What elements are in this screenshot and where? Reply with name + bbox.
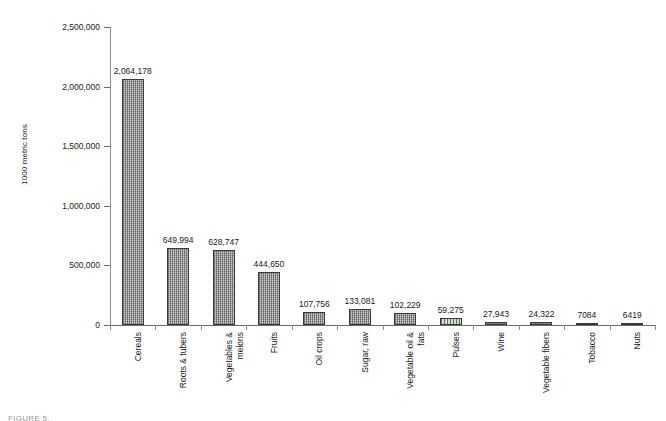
bar[interactable] xyxy=(394,313,416,325)
y-axis-tick-label: 2,000,000 xyxy=(14,82,100,92)
bar-slot: 133,081 xyxy=(337,27,382,325)
x-axis-tick xyxy=(292,325,293,330)
x-axis-category-label-line: Roots & tubers xyxy=(178,332,188,388)
bar[interactable] xyxy=(303,312,325,325)
y-axis-tick-label: 1,000,000 xyxy=(14,201,100,211)
x-axis-category-label-line: Oil crops xyxy=(314,332,324,366)
bar[interactable] xyxy=(213,250,235,325)
x-axis-category-label: Vegetable oil &fats xyxy=(383,332,428,418)
bar[interactable] xyxy=(530,322,552,325)
x-axis-category-label: Sugar, raw xyxy=(337,332,382,418)
x-axis-tick xyxy=(337,325,338,330)
x-axis-category-label: Pulses xyxy=(428,332,473,418)
bar-slot: 649,994 xyxy=(155,27,200,325)
y-axis-tick-label: 0 xyxy=(14,320,100,330)
x-axis-tick xyxy=(610,325,611,330)
x-axis-tick xyxy=(519,325,520,330)
bar[interactable] xyxy=(440,318,462,325)
bar-slot: 444,650 xyxy=(246,27,291,325)
x-axis-category-label-line: Vegetable fibers xyxy=(541,332,551,393)
bar[interactable] xyxy=(485,322,507,325)
bar-slot: 27,943 xyxy=(473,27,518,325)
x-axis-category-label-line: Wine xyxy=(496,332,506,351)
x-axis-tick xyxy=(155,325,156,330)
x-axis-tick xyxy=(655,325,656,330)
x-axis-category-label-line: Nuts xyxy=(632,332,642,349)
x-axis-tick xyxy=(246,325,247,330)
x-axis-category-label: Fruits xyxy=(246,332,291,418)
x-axis-category-label: Vegetable fibers xyxy=(519,332,564,418)
bar-slot: 7084 xyxy=(564,27,609,325)
y-axis-tick-label: 2,500,000 xyxy=(14,22,100,32)
bar[interactable] xyxy=(122,79,144,325)
x-axis-category-label: Roots & tubers xyxy=(155,332,200,418)
x-axis-category-label-line: Sugar, raw xyxy=(360,332,370,373)
bar-slot: 102,229 xyxy=(383,27,428,325)
plot-area: 2,064,178649,994628,747444,650107,756133… xyxy=(110,27,655,325)
x-axis-category-label: Vegetables &melons xyxy=(201,332,246,418)
x-axis-category-label-line: Pulses xyxy=(451,332,461,358)
x-axis-category-label: Wine xyxy=(473,332,518,418)
bar-chart: 1000 metric tons 2,500,0002,000,0001,500… xyxy=(0,0,666,421)
x-axis-tick xyxy=(201,325,202,330)
x-axis-category-label-line: Vegetable oil & xyxy=(405,332,415,389)
footer-caption-scrap: FIGURE 5. xyxy=(8,414,50,421)
bar-slot: 107,756 xyxy=(292,27,337,325)
x-axis-category-label-line: Cereals xyxy=(133,332,143,361)
x-axis-category-label: Cereals xyxy=(110,332,155,418)
bar[interactable] xyxy=(621,323,643,325)
bar-value-label: 6419 xyxy=(597,310,666,320)
bar-slot: 59,275 xyxy=(428,27,473,325)
bar[interactable] xyxy=(258,272,280,325)
x-axis-category-label-line: Tobacco xyxy=(587,332,597,364)
x-axis-category-label: Oil crops xyxy=(292,332,337,418)
y-axis-title: 1000 metric tons xyxy=(20,95,29,215)
x-axis-tick xyxy=(564,325,565,330)
x-axis-tick xyxy=(428,325,429,330)
bar-slot: 628,747 xyxy=(201,27,246,325)
bar-slot: 2,064,178 xyxy=(110,27,155,325)
bar[interactable] xyxy=(576,323,598,325)
x-axis-category-label: Nuts xyxy=(610,332,655,418)
x-axis-tick xyxy=(110,325,111,330)
bar[interactable] xyxy=(167,248,189,325)
y-axis-tick-label: 1,500,000 xyxy=(14,141,100,151)
x-axis-tick xyxy=(473,325,474,330)
x-axis-category-label-line: Vegetables & xyxy=(224,332,234,382)
bar-slot: 6419 xyxy=(610,27,655,325)
x-axis-tick xyxy=(383,325,384,330)
x-axis-category-label-line: Fruits xyxy=(269,332,279,353)
bar-slot: 24,322 xyxy=(519,27,564,325)
y-axis-tick-label: 500,000 xyxy=(14,260,100,270)
x-axis-category-label-line: fats xyxy=(416,332,427,389)
x-axis-category-label: Tobacco xyxy=(564,332,609,418)
bar[interactable] xyxy=(349,309,371,325)
x-axis-category-label-line: melons xyxy=(234,332,245,382)
